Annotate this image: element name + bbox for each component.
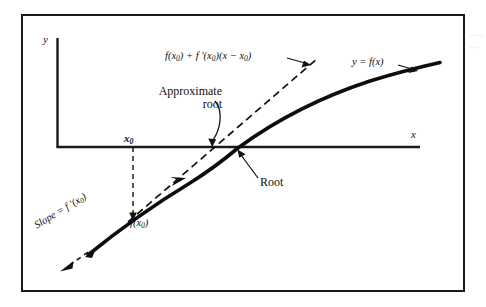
tangent-eq-part4: ) [248,50,252,61]
curve-equation-label: y = f(x) [352,56,384,68]
approximate-root-line2: root [134,98,222,111]
page-bleedthrough: ▪ ▪ ▪ ▪ ▪ ▪ ▪ ▪ [470,30,484,140]
approximate-root-arrowhead [208,139,216,147]
slope-arrowhead [60,261,74,272]
approximate-root-label: Approximate root [134,85,222,112]
root-leader [241,155,258,178]
tangent-eq-part1: f(x [165,50,176,61]
tangent-equation-label: f(x0) + f '(x0)(x − x0) [165,50,251,63]
curve-equation-leader [398,65,412,69]
newton-method-diagram [0,0,486,307]
fx0-label-prefix: f(x [130,217,141,228]
fx0-label: f(x0) [130,217,148,230]
figure-page: y x x0 f(x0) f(x0) + f '(x0)(x − x0) y =… [0,0,486,307]
tangent-equation-arrowhead [302,61,312,68]
approximate-root-line1: Approximate [134,85,222,98]
x-axis-label: x [411,128,416,140]
tangent-equation-leader [287,58,305,63]
x0-label-subscript: 0 [130,137,134,146]
y-axis-label: y [43,33,48,45]
x0-label: x0 [124,132,133,147]
tangent-eq-part2: ) + f '(x [180,50,212,61]
tangent-eq-part3: )(x − x [215,50,244,61]
fx0-label-suffix: ) [145,217,149,228]
root-label: Root [260,176,283,189]
tangent-line [128,58,318,222]
